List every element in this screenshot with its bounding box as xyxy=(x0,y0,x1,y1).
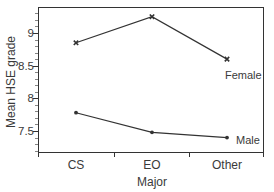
series-label-male: Male xyxy=(236,134,260,146)
line-chart: Mean HSE grade CS EO Other Major 9 8.5 8… xyxy=(0,0,274,192)
y-tick-label-8-5: 8.5 xyxy=(18,60,34,72)
x-ticks xyxy=(39,153,264,158)
y-tick-label-8: 8 xyxy=(28,92,34,104)
y-tick-label-7-5: 7.5 xyxy=(18,125,34,137)
series-line-female xyxy=(76,17,227,59)
y-tick-label-9: 9 xyxy=(28,27,34,39)
series-label-female: Female xyxy=(225,69,262,81)
x-marker-icon xyxy=(225,57,229,61)
dot-marker-icon xyxy=(150,130,154,134)
x-tick-label-cs: CS xyxy=(68,158,85,172)
series-lines xyxy=(74,14,229,139)
dot-marker-icon xyxy=(74,111,78,115)
y-axis-label: Mean HSE grade xyxy=(4,36,18,128)
x-tick-label-eo: EO xyxy=(143,158,160,172)
y-minor-ticks xyxy=(35,14,39,152)
dot-marker-icon xyxy=(225,136,229,140)
y-major-ticks xyxy=(33,34,39,132)
x-tick-label-other: Other xyxy=(212,158,242,172)
x-axis-label: Major xyxy=(137,175,167,189)
